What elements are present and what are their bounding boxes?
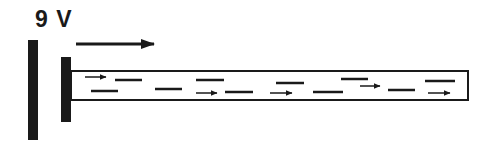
capillary-tube bbox=[71, 71, 468, 100]
left-electrode-plate bbox=[28, 40, 38, 140]
flow-dashes bbox=[91, 79, 455, 92]
capillary-electrophoresis-diagram bbox=[0, 0, 495, 142]
right-electrode-plate bbox=[61, 57, 71, 122]
